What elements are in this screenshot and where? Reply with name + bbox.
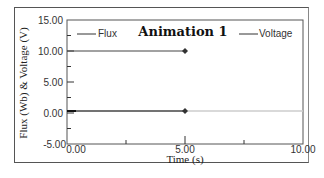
y-tick-10: 10.00 [38,46,63,57]
legend-flux-label: Flux [98,28,117,39]
x-tick-0: 0.00 [66,144,86,155]
x-axis-ticks [126,136,244,144]
flux-end-marker [182,108,188,114]
voltage-end-marker [182,48,188,54]
chart-canvas: 15.00 10.00 5.00 0.00 -5.00 0.00 5.00 10… [0,0,324,178]
legend-voltage-label: Voltage [259,28,293,39]
y-tick-0: 0.00 [44,108,64,119]
y-axis-ticks [67,36,74,129]
y-axis-label: Flux (Wb) & Voltage (V) [17,27,30,139]
y-tick-neg5: -5.00 [43,139,66,150]
y-tick-15: 15.00 [38,15,63,26]
chart-title: Animation 1 [137,24,227,39]
y-tick-5: 5.00 [44,77,64,88]
x-tick-10: 10.00 [290,144,315,155]
x-axis-label: Time (s) [166,153,204,166]
